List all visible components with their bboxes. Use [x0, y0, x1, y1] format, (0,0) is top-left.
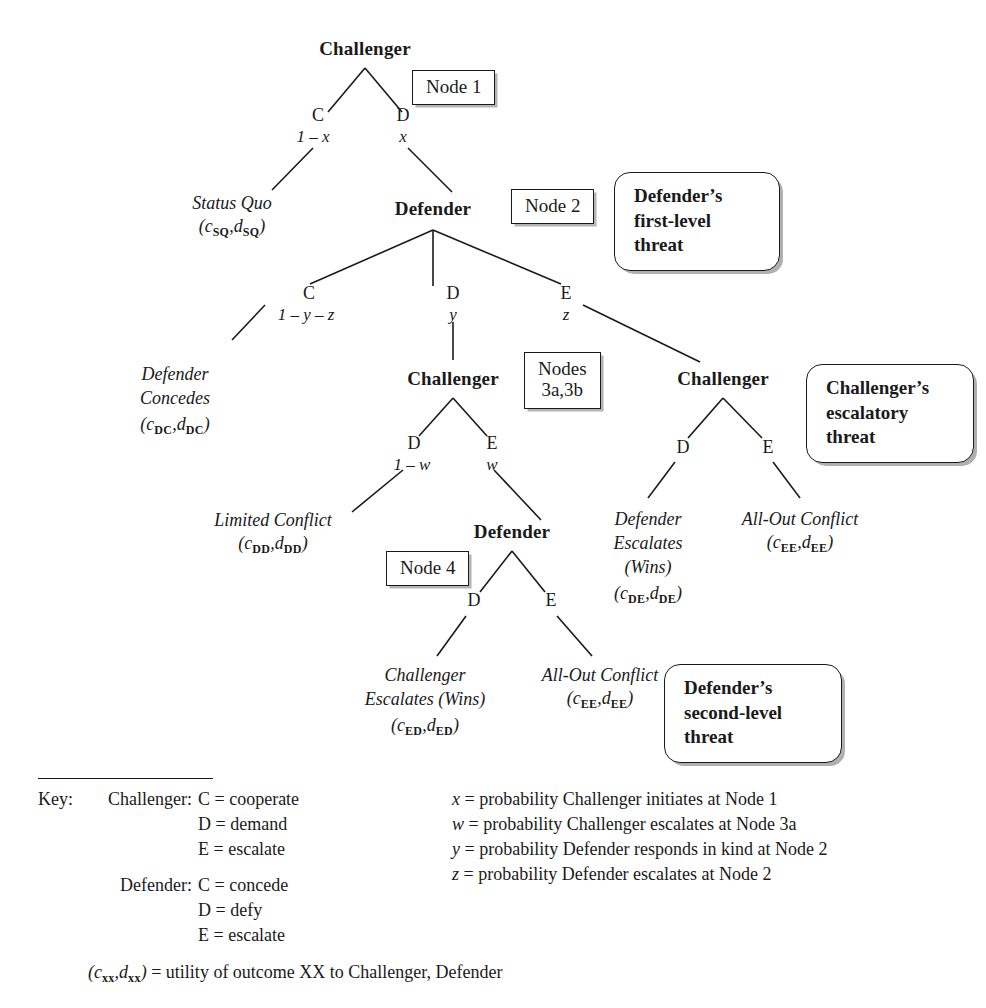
node-tag-node-4-label: Node 4	[400, 557, 455, 578]
node-4-action-E: E	[546, 590, 557, 611]
node-3a-prob-w: w	[486, 455, 497, 475]
callout-line-2: escalatory	[826, 401, 956, 426]
key-separator-rule	[38, 778, 213, 779]
key-prob-symbol-z: z	[452, 864, 459, 884]
callout-line-1: Challenger’s	[826, 376, 956, 401]
edge-n3a-D	[419, 398, 453, 436]
edge-n4-E-tail	[557, 616, 592, 656]
node-tag-node-4: Node 4	[386, 551, 469, 586]
node-tag-node-1-label: Node 1	[426, 76, 481, 97]
edge-n2-C	[310, 230, 433, 284]
outcome-all-out-conflict-4-payoff: (cEE,dEE)	[567, 688, 634, 709]
node-2-action-D: D	[447, 283, 460, 304]
node-tag-nodes-3a-3b-line-1: Nodes	[538, 358, 587, 379]
node-1-prob-1-minus-x: 1 – x	[296, 127, 329, 147]
callout-line-1: Defender’s	[634, 184, 762, 209]
outcome-defender-escalates-line-2: Escalates	[614, 532, 683, 556]
node-3b-player-challenger: Challenger	[677, 368, 769, 390]
edge-n3a-E-tail	[494, 470, 541, 520]
outcome-all-out-conflict-3b-label: All-Out Conflict	[742, 508, 859, 532]
edge-n2-E	[433, 230, 561, 284]
key-actor-defender: Defender:	[74, 875, 192, 896]
callout-challengers-escalatory-threat: Challenger’s escalatory threat	[806, 364, 974, 463]
key-payoff-symbols: (cxx,dxx)	[88, 962, 147, 982]
key-prob-symbol-w: w	[452, 814, 464, 834]
edge-n3b-E	[723, 398, 762, 438]
key-defender-entry-D: D = defy	[198, 900, 262, 921]
outcome-limited-conflict-label: Limited Conflict	[214, 509, 332, 533]
outcome-all-out-conflict-4-label: All-Out Conflict	[542, 664, 659, 688]
node-3b-action-E: E	[763, 437, 774, 458]
callout-line-3: threat	[826, 425, 956, 450]
key-title: Key:	[38, 789, 73, 810]
callout-line-3: threat	[684, 725, 824, 750]
edge-n3a-D-tail	[352, 470, 403, 512]
edge-n2-C-tail	[232, 305, 265, 340]
node-1-action-D: D	[397, 105, 410, 126]
node-2-player-defender: Defender	[395, 198, 472, 220]
outcome-limited-conflict-payoff: (cDD,dDD)	[238, 533, 307, 554]
node-3a-action-D: D	[408, 433, 421, 454]
edge-n4-D	[480, 551, 512, 592]
callout-line-3: threat	[634, 233, 762, 258]
node-tag-nodes-3a-3b: Nodes 3a,3b	[524, 352, 601, 409]
callout-line-1: Defender’s	[684, 676, 824, 701]
edge-n1-C-tail	[272, 148, 313, 190]
key-payoff-text: = utility of outcome XX to Challenger, D…	[151, 962, 502, 982]
key-prob-note-x: x = probability Challenger initiates at …	[452, 789, 778, 810]
edge-n3b-D	[688, 398, 723, 438]
key-prob-note-w: w = probability Challenger escalates at …	[452, 814, 797, 835]
node-4-player-defender: Defender	[474, 521, 551, 543]
outcome-defender-concedes-line-2: Concedes	[140, 387, 210, 411]
callout-line-2: first-level	[634, 209, 762, 234]
edge-n3b-E-tail	[773, 462, 800, 498]
key-defender-entry-E: E = escalate	[198, 925, 285, 946]
key-challenger-entry-E: E = escalate	[198, 839, 285, 860]
outcome-challenger-escalates-line-2: Escalates (Wins)	[365, 688, 485, 712]
outcome-challenger-escalates-line-1: Challenger	[385, 664, 466, 688]
node-3b-action-D: D	[677, 437, 690, 458]
key-prob-text-w: = probability Challenger escalates at No…	[469, 814, 797, 834]
node-1-prob-x: x	[399, 127, 407, 147]
outcome-defender-concedes-payoff: (cDC,dDC)	[140, 414, 209, 435]
outcome-status-quo-label: Status Quo	[192, 192, 272, 216]
node-3a-player-challenger: Challenger	[407, 368, 499, 390]
outcome-defender-concedes-line-1: Defender	[142, 363, 209, 387]
key-prob-note-y: y = probability Defender responds in kin…	[452, 839, 828, 860]
node-tag-node-1: Node 1	[412, 70, 495, 105]
edge-n1-D-tail	[408, 148, 452, 192]
callout-defenders-second-level-threat: Defender’s second-level threat	[664, 664, 842, 763]
edge-n1-C	[328, 68, 365, 112]
node-2-action-E: E	[561, 283, 572, 304]
key-challenger-entry-D: D = demand	[198, 814, 287, 835]
game-tree-figure: Challenger C 1 – x D x Node 1 Status Quo…	[0, 0, 986, 1008]
node-2-prob-y: y	[449, 305, 457, 325]
outcome-status-quo-payoff: (cSQ,dSQ)	[199, 216, 266, 237]
edge-n3a-E	[453, 398, 487, 436]
key-challenger-entry-C: C = cooperate	[198, 789, 299, 810]
outcome-defender-escalates-payoff: (cDE,dDE)	[614, 583, 682, 604]
outcome-defender-escalates-line-3: (Wins)	[625, 556, 672, 580]
node-2-action-C: C	[303, 283, 315, 304]
callout-defenders-first-level-threat: Defender’s first-level threat	[614, 172, 780, 271]
edge-n4-E	[512, 551, 545, 592]
node-1-player-challenger: Challenger	[319, 38, 411, 60]
key-prob-symbol-y: y	[452, 839, 460, 859]
callout-line-2: second-level	[684, 701, 824, 726]
key-payoff-note: (cxx,dxx) = utility of outcome XX to Cha…	[88, 962, 503, 983]
outcome-all-out-conflict-3b-payoff: (cEE,dEE)	[767, 532, 834, 553]
outcome-defender-escalates-line-1: Defender	[615, 508, 682, 532]
key-defender-entry-C: C = concede	[198, 875, 288, 896]
key-prob-text-x: = probability Challenger initiates at No…	[465, 789, 778, 809]
outcome-challenger-escalates-payoff: (cED,dED)	[391, 715, 459, 736]
node-tag-node-2-label: Node 2	[525, 195, 580, 216]
key-actor-challenger: Challenger:	[74, 789, 192, 810]
edge-n4-D-tail	[437, 616, 466, 656]
node-2-prob-1-minus-y-minus-z: 1 – y – z	[278, 305, 335, 325]
key-prob-symbol-x: x	[452, 789, 460, 809]
edge-n3b-D-tail	[648, 462, 675, 498]
key-prob-text-z: = probability Defender escalates at Node…	[464, 864, 772, 884]
node-3a-prob-1-minus-w: 1 – w	[394, 455, 431, 475]
node-3a-action-E: E	[487, 433, 498, 454]
node-tag-node-2: Node 2	[511, 189, 594, 224]
